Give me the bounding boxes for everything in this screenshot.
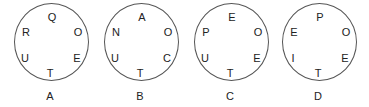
letter-lower-left: I <box>287 53 299 64</box>
figure-c: E O E T U P C <box>184 0 276 107</box>
letter-lower-right: E <box>71 53 83 64</box>
figure-caption: C <box>226 91 234 102</box>
letter-upper-left: R <box>20 27 32 38</box>
letter-top: A <box>136 12 148 23</box>
letter-lower-right: E <box>251 53 263 64</box>
letter-top: Q <box>46 12 58 23</box>
letter-bottom: T <box>312 68 324 79</box>
letter-upper-right: O <box>162 27 174 38</box>
figure-b: A O C T U N B <box>94 0 186 107</box>
figure-d: P O E T I E D <box>272 0 364 107</box>
letter-upper-left: P <box>200 27 212 38</box>
letter-upper-right: O <box>340 27 352 38</box>
letter-lower-left: U <box>19 53 31 64</box>
figure-caption: A <box>46 91 53 102</box>
letter-upper-left: E <box>288 27 300 38</box>
figure-caption: B <box>136 91 143 102</box>
letter-bottom: T <box>134 68 146 79</box>
letter-upper-left: N <box>110 27 122 38</box>
letter-bottom: T <box>44 68 56 79</box>
letter-top: E <box>226 12 238 23</box>
figure-caption: D <box>314 91 322 102</box>
letter-lower-right: E <box>339 53 351 64</box>
letter-bottom: T <box>224 68 236 79</box>
letter-upper-right: O <box>72 27 84 38</box>
letter-top: P <box>314 12 326 23</box>
figure-a: Q O E T U R A <box>4 0 96 107</box>
letter-lower-left: U <box>109 53 121 64</box>
letter-upper-right: O <box>252 27 264 38</box>
letter-lower-right: C <box>161 53 173 64</box>
letter-lower-left: U <box>199 53 211 64</box>
